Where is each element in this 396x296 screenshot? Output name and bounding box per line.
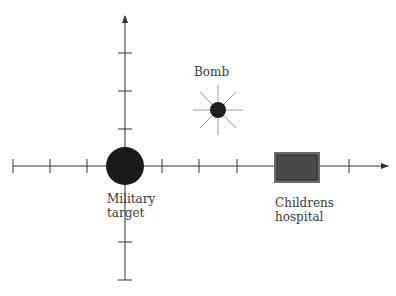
military-label-line2: target: [107, 206, 155, 220]
hospital-label-line2: hospital: [275, 210, 334, 224]
military-label-line1: Military: [107, 192, 155, 206]
hospital-label: Childrens hospital: [275, 196, 334, 224]
military-target-circle: [106, 147, 144, 185]
hospital-box: [274, 152, 320, 183]
hospital-label-line1: Childrens: [275, 196, 334, 210]
diagram-canvas: [0, 0, 396, 296]
bomb-icon: [193, 85, 243, 135]
bomb-label: Bomb: [194, 65, 229, 79]
x-axis: [13, 159, 388, 173]
military-target-label: Military target: [107, 192, 155, 220]
